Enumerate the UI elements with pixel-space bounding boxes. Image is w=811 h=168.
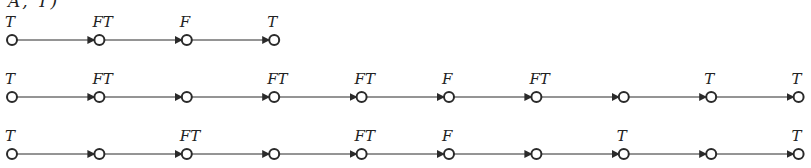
- state-node: [94, 149, 104, 159]
- state-label: FT: [179, 127, 201, 145]
- state-node: [94, 92, 104, 102]
- state-node: [444, 149, 454, 159]
- state-node: [706, 149, 716, 159]
- sequence-row-2: TFTFTFTFFTTT: [5, 70, 804, 102]
- state-node: [619, 149, 629, 159]
- state-label: FT: [528, 70, 550, 88]
- state-node: [7, 92, 17, 102]
- state-node: [7, 149, 17, 159]
- state-label: T: [267, 13, 278, 31]
- state-node: [794, 149, 804, 159]
- state-label: FT: [354, 70, 376, 88]
- state-label: T: [704, 70, 715, 88]
- state-label: T: [5, 70, 16, 88]
- state-node: [531, 92, 541, 102]
- state-label: F: [441, 70, 453, 88]
- state-label: T: [792, 127, 803, 145]
- state-node: [269, 35, 279, 45]
- state-node: [794, 92, 804, 102]
- state-node: [706, 92, 716, 102]
- state-node: [94, 35, 104, 45]
- state-node: [182, 92, 192, 102]
- state-label: T: [617, 127, 628, 145]
- state-label: FT: [266, 70, 288, 88]
- sequence-row-1: TFTFT: [5, 13, 279, 45]
- state-node: [7, 35, 17, 45]
- state-node: [357, 149, 367, 159]
- state-node: [531, 149, 541, 159]
- state-label: T: [5, 13, 16, 31]
- state-node: [269, 149, 279, 159]
- state-label: T: [5, 127, 16, 145]
- state-sequence-diagram: TFTFTTFTFTFTFFTTTTFTFTFTT: [0, 0, 811, 168]
- state-label: T: [792, 70, 803, 88]
- cropped-caption-fragment: A, T): [8, 0, 59, 11]
- diagram-canvas: A, T) TFTFTTFTFTFTFFTTTTFTFTFTT: [0, 0, 811, 168]
- state-node: [357, 92, 367, 102]
- state-label: FT: [354, 127, 376, 145]
- state-node: [269, 92, 279, 102]
- state-label: F: [179, 13, 191, 31]
- state-node: [182, 35, 192, 45]
- state-node: [619, 92, 629, 102]
- state-label: FT: [91, 70, 113, 88]
- state-label: F: [441, 127, 453, 145]
- state-label: FT: [91, 13, 113, 31]
- state-node: [182, 149, 192, 159]
- state-node: [444, 92, 454, 102]
- sequence-row-3: TFTFTFTT: [5, 127, 804, 159]
